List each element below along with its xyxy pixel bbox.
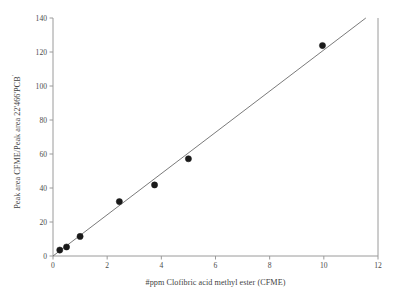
axis-lines (53, 18, 378, 256)
data-points (57, 42, 326, 253)
chart-figure: Peak area CFME/Peak area 22'466'PCB' #pp… (0, 0, 402, 300)
regression-line (53, 18, 366, 256)
data-point-marker (319, 42, 325, 48)
data-point-marker (116, 199, 122, 205)
data-point-marker (77, 233, 83, 239)
fit-line (53, 18, 366, 256)
data-point-marker (63, 244, 69, 250)
data-point-marker (151, 182, 157, 188)
data-point-marker (185, 156, 191, 162)
tick-marks (50, 18, 379, 260)
data-point-marker (57, 247, 63, 253)
plot-area (0, 0, 402, 300)
